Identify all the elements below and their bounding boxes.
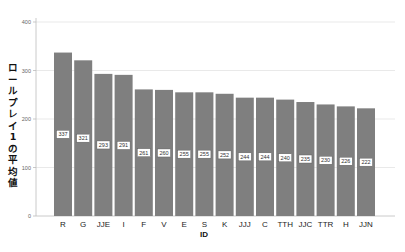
y-axis-label-char: の — [6, 143, 20, 155]
x-tick-label: F — [141, 220, 146, 229]
x-tick-label: I — [122, 220, 124, 229]
x-tick-label: V — [161, 220, 167, 229]
y-tick-label: 300 — [22, 68, 31, 74]
data-label: 230 — [321, 157, 330, 163]
x-tick-label: S — [202, 220, 207, 229]
bar-chart: 0100200300400337R321G293JJE291I261F260V2… — [0, 0, 405, 252]
data-label: 255 — [200, 151, 209, 157]
data-label: 244 — [260, 154, 269, 160]
x-tick-label: TTR — [318, 220, 334, 229]
x-axis-label: ID — [200, 230, 208, 239]
y-axis-label-char: プ — [6, 97, 20, 109]
y-axis-label-char: ロ — [6, 62, 20, 74]
y-axis-label: ロールプレイ1の平均値 — [6, 62, 20, 189]
x-tick-label: C — [262, 220, 268, 229]
x-tick-label: JJN — [359, 220, 373, 229]
x-tick-label: JJE — [97, 220, 110, 229]
data-label: 240 — [281, 155, 290, 161]
y-axis-label-char: 均 — [6, 166, 20, 178]
data-label: 222 — [361, 159, 370, 165]
data-label: 293 — [99, 142, 108, 148]
y-axis-label-char: ル — [6, 85, 20, 97]
y-axis-label-char: 平 — [6, 154, 20, 166]
data-label: 291 — [119, 142, 128, 148]
y-tick-label: 400 — [22, 19, 31, 25]
x-tick-label: TTH — [277, 220, 293, 229]
data-label: 235 — [301, 156, 310, 162]
data-label: 321 — [79, 135, 88, 141]
y-axis-label-char: 1 — [6, 131, 20, 143]
y-axis-label-char: ー — [6, 74, 20, 86]
data-label: 337 — [58, 131, 67, 137]
x-tick-label: E — [182, 220, 187, 229]
y-tick-label: 100 — [22, 165, 31, 171]
x-tick-label: R — [60, 220, 66, 229]
data-label: 226 — [341, 158, 350, 164]
data-label: 255 — [180, 151, 189, 157]
data-label: 261 — [139, 150, 148, 156]
x-tick-label: JJJ — [239, 220, 251, 229]
x-tick-label: G — [80, 220, 86, 229]
data-label: 244 — [240, 154, 249, 160]
x-tick-label: K — [222, 220, 228, 229]
x-tick-label: H — [343, 220, 349, 229]
y-tick-label: 0 — [28, 213, 31, 219]
y-axis-label-char: 値 — [6, 177, 20, 189]
y-axis-label-char: レ — [6, 108, 20, 120]
y-tick-label: 200 — [22, 116, 31, 122]
data-label: 260 — [159, 150, 168, 156]
plot-area: 0100200300400337R321G293JJE291I261F260V2… — [0, 0, 405, 252]
data-label: 252 — [220, 152, 229, 158]
x-tick-label: JJC — [299, 220, 313, 229]
y-axis-label-char: イ — [6, 120, 20, 132]
